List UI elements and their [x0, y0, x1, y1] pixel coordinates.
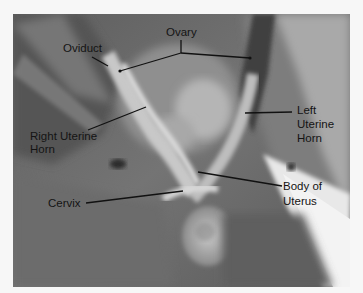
label-body-of-uterus-1: Body of [283, 180, 322, 193]
label-right-uterine-horn-2: Horn [30, 143, 55, 156]
label-left-uterine-horn-3: Horn [297, 132, 322, 145]
label-left-uterine-horn-2: Uterine [297, 118, 334, 131]
label-body-of-uterus-2: Uterus [283, 195, 317, 208]
label-cervix: Cervix [48, 197, 81, 210]
label-oviduct: Oviduct [63, 42, 102, 55]
label-left-uterine-horn-1: Left [297, 104, 316, 117]
label-ovary: Ovary [166, 26, 197, 39]
label-right-uterine-horn-1: Right Uterine [30, 130, 97, 143]
